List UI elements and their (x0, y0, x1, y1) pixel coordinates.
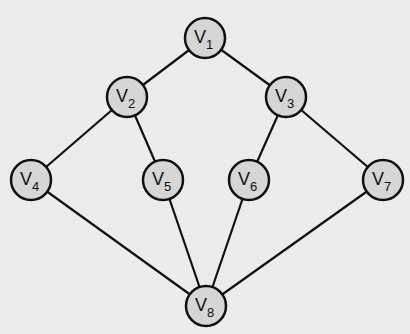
graph-diagram: V1V2V3V4V5V6V7V8 (0, 0, 410, 334)
node-v4: V4 (11, 160, 51, 200)
node-v1: V1 (185, 18, 225, 58)
node-subscript: 4 (32, 179, 39, 194)
node-subscript: 6 (250, 179, 257, 194)
node-subscript: 8 (207, 305, 214, 320)
nodes: V1V2V3V4V5V6V7V8 (11, 18, 403, 326)
node-v3: V3 (266, 77, 306, 117)
node-v2: V2 (107, 77, 147, 117)
edge-v7-v8 (206, 180, 383, 306)
edges (31, 38, 383, 306)
node-v8: V8 (186, 286, 226, 326)
node-v5: V5 (143, 160, 183, 200)
node-subscript: 2 (128, 96, 135, 111)
node-v7: V7 (363, 160, 403, 200)
node-subscript: 1 (206, 37, 213, 52)
edge-v4-v8 (31, 180, 206, 306)
node-subscript: 3 (287, 96, 294, 111)
node-v6: V6 (229, 160, 269, 200)
node-subscript: 5 (164, 179, 171, 194)
node-subscript: 7 (384, 179, 391, 194)
